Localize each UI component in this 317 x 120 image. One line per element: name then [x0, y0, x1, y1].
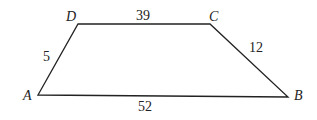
vertex-label-a: A [23, 89, 32, 103]
side-label-ab: 52 [138, 100, 152, 114]
side-label-cb: 12 [249, 41, 263, 55]
vertex-label-d: D [66, 10, 76, 24]
vertex-label-c: C [209, 10, 218, 24]
vertex-label-b: B [294, 89, 303, 103]
side-label-dc: 39 [136, 9, 150, 23]
trapezoid-shape [38, 24, 288, 97]
side-label-ad: 5 [43, 50, 50, 64]
